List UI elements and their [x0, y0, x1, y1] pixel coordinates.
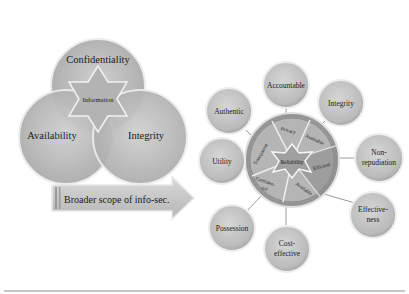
diagram-canvas: Confidentiality Availability Integrity I…	[0, 0, 409, 294]
arrow-label: Broader scope of info-sec.	[64, 194, 170, 205]
svg-text:effective: effective	[274, 249, 301, 258]
satellite-integrity: Integrity	[318, 80, 364, 126]
venn-center-label: Information	[82, 96, 114, 103]
svg-text:Effective-: Effective-	[358, 205, 388, 214]
satellite-cost-effective: Cost- effective	[264, 226, 310, 272]
satellite-non-repudiation: Non- repudiation	[355, 134, 403, 182]
svg-text:Possession: Possession	[216, 224, 249, 233]
satellite-effectiveness: Effective- ness	[350, 192, 396, 238]
satellite-possession: Possession	[209, 205, 255, 251]
wheel-center-label: Reliability	[280, 159, 303, 165]
svg-text:Accountable: Accountable	[267, 81, 306, 90]
venn-label-availability: Availability	[27, 130, 77, 141]
svg-text:repudiation: repudiation	[362, 158, 396, 167]
security-wheel: Reliability Privacy Auditable Efficient …	[245, 113, 339, 207]
svg-text:Non-: Non-	[371, 148, 387, 157]
svg-text:Authentic: Authentic	[214, 107, 244, 116]
satellite-authentic: Authentic	[206, 88, 252, 134]
venn-diagram: Confidentiality Availability Integrity I…	[19, 39, 187, 184]
venn-label-confidentiality: Confidentiality	[66, 54, 130, 65]
venn-label-integrity: Integrity	[128, 130, 165, 141]
satellite-utility: Utility	[199, 138, 245, 184]
svg-text:Utility: Utility	[212, 157, 232, 166]
satellite-accountable: Accountable	[263, 62, 309, 108]
svg-text:ness: ness	[367, 215, 380, 224]
svg-text:Cost-: Cost-	[279, 239, 296, 248]
svg-text:Integrity: Integrity	[328, 99, 354, 108]
